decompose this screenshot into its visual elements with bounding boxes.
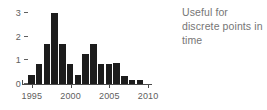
bar — [98, 64, 105, 84]
bar — [59, 44, 66, 84]
x-axis-tick-mark — [71, 84, 72, 88]
figure: 0123 1995200020052010 Useful fordiscrete… — [0, 0, 267, 110]
annotation-line: discrete points in — [182, 19, 267, 33]
x-axis-line — [22, 84, 152, 85]
bar — [113, 63, 120, 84]
x-axis-tick-label: 2000 — [60, 91, 81, 101]
annotation-line: time — [182, 33, 267, 47]
bar — [75, 75, 82, 85]
x-axis-tick-mark — [148, 84, 149, 88]
bar — [51, 13, 58, 84]
bar — [44, 44, 51, 84]
x-axis-tick-mark — [32, 84, 33, 88]
plot-area — [28, 8, 152, 84]
bar — [106, 64, 113, 84]
y-axis-tick: 2 — [16, 32, 28, 42]
y-axis-tick: 1 — [16, 55, 28, 65]
x-axis-tick-label: 2005 — [99, 91, 120, 101]
y-axis-tick: 3 — [16, 8, 28, 18]
annotation-line: Useful for — [182, 5, 267, 19]
annotation-text: Useful fordiscrete points intime — [182, 5, 267, 47]
bar — [36, 64, 43, 84]
y-axis-tick-label: 3 — [16, 8, 21, 18]
x-axis-tick-mark — [109, 84, 110, 88]
bar — [121, 76, 128, 84]
y-axis: 0123 — [0, 0, 28, 92]
bar-chart: 0123 1995200020052010 — [0, 0, 160, 110]
bar — [90, 44, 97, 84]
bar — [67, 64, 74, 84]
y-axis-tick-label: 2 — [16, 32, 21, 42]
bar — [28, 75, 35, 85]
x-axis-tick-label: 2010 — [138, 91, 159, 101]
bar — [82, 54, 89, 84]
y-axis-tick-label: 1 — [16, 55, 21, 65]
x-axis-tick-label: 1995 — [21, 91, 42, 101]
y-axis-tick-label: 0 — [16, 79, 21, 89]
